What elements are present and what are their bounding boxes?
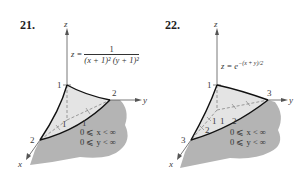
y-axis-label: y	[288, 95, 293, 105]
x-tick-2: 2	[205, 125, 210, 135]
y-tick-1: 1	[220, 116, 225, 126]
x-tick-1: 1	[62, 119, 67, 129]
x-tick-2: 2	[30, 135, 35, 145]
surface-plot-21: z y x 1 2 2 1 1	[0, 0, 150, 177]
surface-plot-22: z y x 1 3 3 1 2 1 2	[150, 0, 295, 177]
x-axis-label: x	[17, 159, 22, 169]
figure-21: 21. z y x 1 2 2 1 1	[0, 0, 150, 177]
z-tick-1: 1	[207, 80, 212, 90]
z-axis-label: z	[213, 19, 218, 29]
equation-21: z = 1 (x + 1)² (y + 1)²	[71, 44, 139, 66]
equation-numerator: 1	[84, 44, 139, 55]
equation-22: z = e−(x + y)/2	[221, 60, 263, 71]
equation-exponent: −(x + y)/2	[238, 60, 263, 66]
domain-label-21: 0 ⩽ x < ∞ 0 ⩽ y < ∞	[80, 127, 116, 147]
x-tick-1: 1	[212, 116, 217, 126]
y-tick-3: 3	[267, 88, 272, 98]
domain-label-22: 0 ⩽ x < ∞ 0 ⩽ y < ∞	[230, 127, 266, 147]
x-tick-3: 3	[181, 135, 186, 145]
z-axis-label: z	[63, 19, 68, 29]
x-axis-label: x	[168, 159, 173, 169]
y-axis-label: y	[142, 95, 147, 105]
y-tick-2: 2	[112, 88, 117, 98]
z-tick-1: 1	[57, 80, 62, 90]
y-tick-2: 2	[232, 116, 237, 126]
equation-denominator: (x + 1)² (y + 1)²	[84, 55, 139, 66]
figure-22: 22. z y x 1 3 3 1 2 1 2 z = e−(x + y)/2	[150, 0, 295, 177]
